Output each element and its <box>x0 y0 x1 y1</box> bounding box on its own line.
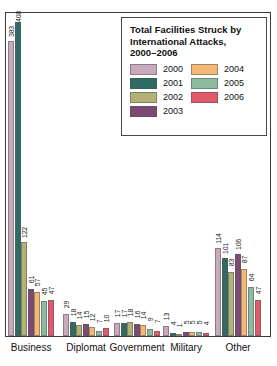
legend-item-2001: 2001 <box>130 78 183 89</box>
x-axis-label-business: Business <box>11 342 52 353</box>
bar-business-2006: 47 <box>48 13 54 336</box>
bar-value-label: 101 <box>221 243 228 254</box>
bar-rect <box>83 324 89 336</box>
legend-item-2003: 2003 <box>130 106 183 117</box>
legend-swatch-2005 <box>191 78 218 89</box>
bar-value-label: 10 <box>102 315 109 322</box>
legend-columns: 2000200120022003 200420052006 <box>130 64 259 117</box>
legend-label: 2003 <box>163 106 183 116</box>
legend-title-line: International Attacks, <box>130 36 259 48</box>
bar-value-label: 383 <box>8 26 15 37</box>
bar-government-2000: 17 <box>114 13 120 336</box>
bar-diplomat-2006: 10 <box>103 13 109 336</box>
bar-rect <box>222 258 228 336</box>
x-axis-label-diplomat: Diplomat <box>66 342 105 353</box>
bar-rect <box>89 327 95 336</box>
legend-column-left: 2000200120022003 <box>130 64 183 117</box>
bar-diplomat-2001: 18 <box>70 13 76 336</box>
legend-title: Total Facilities Struck byInternational … <box>130 24 259 59</box>
bar-value-label: 4 <box>169 322 176 326</box>
legend-item-2004: 2004 <box>191 64 244 75</box>
bar-value-label: 29 <box>63 300 70 307</box>
x-axis-label-government: Government <box>110 342 165 353</box>
bar-value-label: 18 <box>69 309 76 316</box>
bar-rect <box>41 301 47 336</box>
bar-value-label: 61 <box>27 276 34 283</box>
bar-group-diplomat: 2918141512710 <box>63 13 109 336</box>
bar-value-label: 106 <box>234 239 241 250</box>
bar-value-label: 12 <box>89 314 96 321</box>
bar-value-label: 7 <box>153 319 160 323</box>
legend-item-2000: 2000 <box>130 64 183 75</box>
bar-value-label: 13 <box>163 313 170 320</box>
legend-swatch-2006 <box>191 92 218 103</box>
legend-label: 2005 <box>224 78 244 88</box>
bar-rect <box>154 331 160 336</box>
bar-value-label: 15 <box>82 311 89 318</box>
legend-swatch-2000 <box>130 64 157 75</box>
bar-value-label: 4 <box>202 322 209 326</box>
bar-value-label: 122 <box>21 227 28 238</box>
bar-diplomat-2000: 29 <box>63 13 69 336</box>
bar-rect <box>70 322 76 336</box>
bar-rect <box>103 328 109 336</box>
bar-rect <box>15 22 21 336</box>
bar-diplomat-2002: 14 <box>76 13 82 336</box>
bar-rect <box>196 332 202 336</box>
x-axis-label-military: Military <box>170 342 202 353</box>
bar-value-label: 47 <box>254 287 261 294</box>
bar-rect <box>76 325 82 336</box>
bar-value-label: 14 <box>140 312 147 319</box>
bar-diplomat-2004: 12 <box>89 13 95 336</box>
bar-rect <box>28 289 34 336</box>
bar-value-label: 408 <box>14 11 21 22</box>
bar-value-label: 1 <box>176 323 183 327</box>
legend-swatch-2002 <box>130 92 157 103</box>
bar-rect <box>241 269 247 336</box>
bar-value-label: 87 <box>241 256 248 263</box>
bar-value-label: 47 <box>47 287 54 294</box>
legend-swatch-2003 <box>130 106 157 117</box>
bar-rect <box>8 41 14 336</box>
legend-column-right: 200420052006 <box>191 64 244 117</box>
legend-item-2005: 2005 <box>191 78 244 89</box>
bar-value-label: 18 <box>127 309 134 316</box>
bar-value-label: 57 <box>34 279 41 286</box>
bar-rect <box>215 248 221 336</box>
bar-value-label: 64 <box>247 274 254 281</box>
bar-rect <box>34 292 40 336</box>
bar-business-2001: 408 <box>15 13 21 336</box>
x-axis-label-other: Other <box>226 342 251 353</box>
bar-value-label: 17 <box>120 310 127 317</box>
legend-label: 2000 <box>163 64 183 74</box>
bar-diplomat-2003: 15 <box>83 13 89 336</box>
bar-value-label: 14 <box>76 312 83 319</box>
bar-value-label: 17 <box>114 310 121 317</box>
bar-rect <box>114 323 120 336</box>
bar-group-business: 38340812261574547 <box>8 13 54 336</box>
bar-business-2000: 383 <box>8 13 14 336</box>
bar-rect <box>48 300 54 336</box>
bar-business-2002: 122 <box>21 13 27 336</box>
bar-rect <box>140 325 146 336</box>
bar-rect <box>134 324 140 336</box>
x-axis-labels: BusinessDiplomatGovernmentMilitaryOther <box>5 340 271 362</box>
legend-item-2002: 2002 <box>130 92 183 103</box>
legend-item-2006: 2006 <box>191 92 244 103</box>
bar-rect <box>248 287 254 336</box>
bar-rect <box>176 334 182 336</box>
bar-diplomat-2005: 7 <box>96 13 102 336</box>
bar-value-label: 5 <box>195 321 202 325</box>
bar-rect <box>163 326 169 336</box>
bar-value-label: 5 <box>182 321 189 325</box>
legend-label: 2006 <box>224 92 244 102</box>
bar-value-label: 9 <box>146 318 153 322</box>
bar-rect <box>235 254 241 336</box>
legend-label: 2001 <box>163 78 183 88</box>
legend-label: 2002 <box>163 92 183 102</box>
bar-rect <box>170 333 176 336</box>
legend-swatch-2001 <box>130 78 157 89</box>
legend-title-line: Total Facilities Struck by <box>130 24 259 36</box>
bar-rect <box>183 332 189 336</box>
bar-rect <box>203 333 209 336</box>
